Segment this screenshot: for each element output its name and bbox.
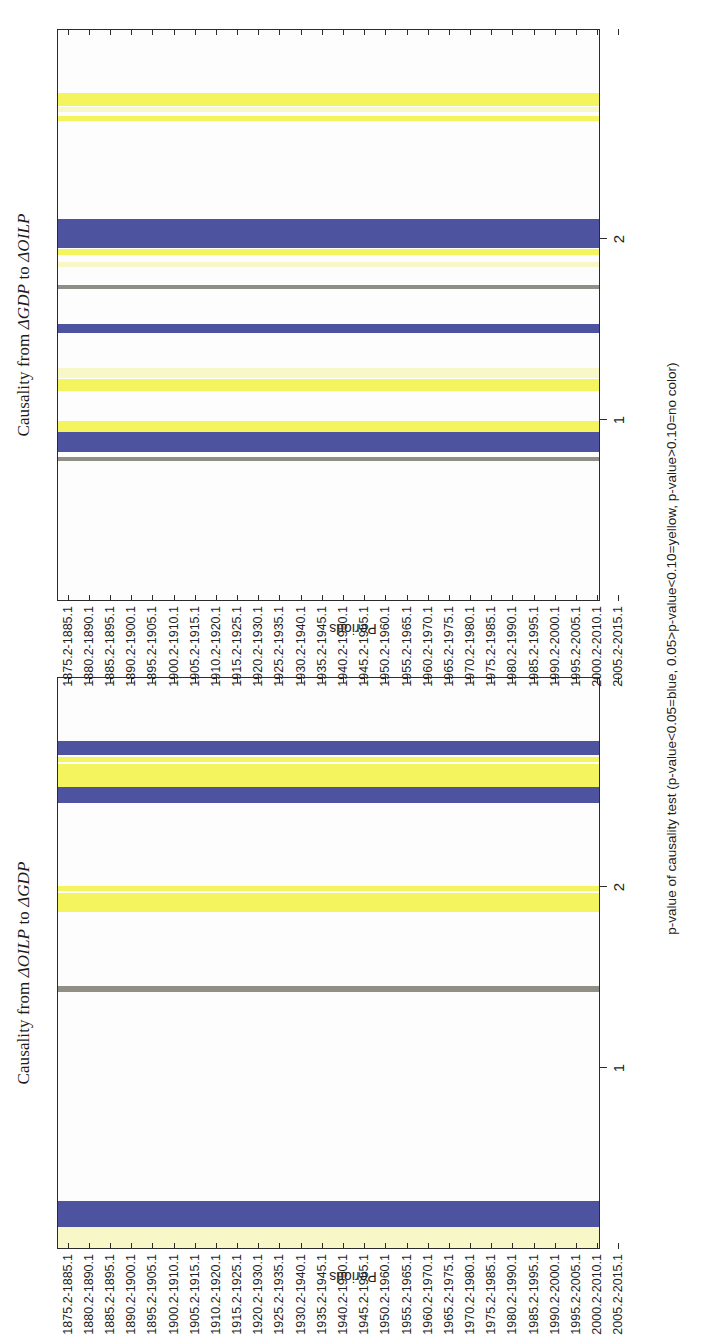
period-tick [555,29,556,35]
period-tick-label: 1945.2-1955.1 [358,1254,371,1335]
period-tick-label: 1920.2-1930.1 [252,606,265,687]
panel-gdp-to-oilp: Causality from ΔGDP to ΔOILP 1875.2-1885… [0,1,706,649]
period-tick-label: 1990.2-2000.1 [549,606,562,687]
pvalue-axis-gdp-to-oilp: 12 [600,29,642,601]
period-tick-label: 2000.2-2010.1 [591,1254,604,1335]
period-tick-label: 1900.2-1910.1 [167,606,180,687]
period-tick-label: 1925.2-1935.1 [273,1254,286,1335]
period-tick [576,29,577,35]
period-tick-label: 1920.2-1930.1 [252,1254,265,1335]
period-tick [597,29,598,35]
period-tick-label: 1975.2-1985.1 [485,606,498,687]
period-tick-label: 1880.2-1890.1 [83,1254,96,1335]
period-tick [110,29,111,35]
period-tick [428,29,429,35]
period-tick-label: 1895.2-1905.1 [146,1254,159,1335]
period-tick-label: 1995.2-2005.1 [570,1254,583,1335]
period-tick [68,29,69,35]
period-tick-label: 1965.2-1975.1 [443,1254,456,1335]
panel-title-gdp-to-oilp: Causality from ΔGDP to ΔOILP [14,1,34,649]
period-tick [491,29,492,35]
period-tick-label: 1935.2-1945.1 [316,1254,329,1335]
pvalue-tick [600,419,607,420]
period-tick-label: 1970.2-1980.1 [464,606,477,687]
figure-caption: p-value of causality test (p-value<0.05=… [664,0,679,1297]
period-tick-label: 1885.2-1895.1 [104,606,117,687]
panel-title-oilp-to-gdp: Causality from ΔOILP to ΔGDP [14,649,34,1297]
period-tick-label: 1970.2-1980.1 [464,1254,477,1335]
period-tick-label: 1945.2-1955.1 [358,606,371,687]
period-tick [470,29,471,35]
period-tick [195,29,196,35]
period-tick-label: 1985.2-1995.1 [527,1254,540,1335]
period-tick [279,29,280,35]
period-tick [407,29,408,35]
period-tick [258,29,259,35]
pvalue-tick-label: 1 [610,1064,627,1072]
period-tick [449,29,450,35]
period-tick-label: 1925.2-1935.1 [273,606,286,687]
period-tick-label: 1895.2-1905.1 [146,606,159,687]
period-tick-label: 1980.2-1990.1 [506,1254,519,1335]
period-tick-label: 1905.2-1915.1 [188,1254,201,1335]
period-tick-label: 1915.2-1925.1 [231,1254,244,1335]
period-tick-label: 1890.2-1900.1 [125,606,138,687]
period-axis-ticks-oilp-to-gdp [57,677,600,1249]
period-tick [152,29,153,35]
period-tick-label: 1930.2-1940.1 [294,606,307,687]
period-tick-label: 1940.2-1950.1 [337,606,350,687]
period-tick-label: 1910.2-1920.1 [210,606,223,687]
period-tick-label: 2000.2-2010.1 [591,606,604,687]
period-tick-label: 1995.2-2005.1 [570,606,583,687]
period-tick [301,29,302,35]
period-tick-label: 1975.2-1985.1 [485,1254,498,1335]
pvalue-tick [600,1067,607,1068]
panel-oilp-to-gdp: Causality from ΔOILP to ΔGDP 1875.2-1885… [0,649,706,1297]
period-tick-label: 1915.2-1925.1 [231,606,244,687]
period-tick-label: 1900.2-1910.1 [167,1254,180,1335]
period-tick-label: 1890.2-1900.1 [125,1254,138,1335]
period-tick [512,29,513,35]
period-tick-label: 1930.2-1940.1 [294,1254,307,1335]
period-tick [385,29,386,35]
period-tick [216,29,217,35]
period-tick-label: 1960.2-1970.1 [421,606,434,687]
period-tick-label: 1965.2-1975.1 [443,606,456,687]
period-tick-label: 1960.2-1970.1 [421,1254,434,1335]
period-tick-label: 1955.2-1965.1 [400,606,413,687]
period-tick-label: 1935.2-1945.1 [316,606,329,687]
period-tick-label: 1875.2-1885.1 [61,1254,74,1335]
pvalue-tick-label: 2 [610,235,627,243]
period-tick-label: 1905.2-1915.1 [188,606,201,687]
pvalue-tick-label: 2 [610,883,627,891]
period-tick [237,29,238,35]
period-tick-label: 1880.2-1890.1 [83,606,96,687]
period-tick [131,29,132,35]
period-tick [343,29,344,35]
period-tick-label: 1955.2-1965.1 [400,1254,413,1335]
period-tick-label: 2005.2-2015.1 [612,1254,625,1335]
period-tick-label: 1885.2-1895.1 [104,1254,117,1335]
axis-title-periods-right: Periods [273,621,433,637]
pvalue-tick [600,886,607,887]
period-tick-label: 1980.2-1990.1 [506,606,519,687]
period-tick [364,29,365,35]
period-tick-label: 1940.2-1950.1 [337,1254,350,1335]
period-axis-ticks-gdp-to-oilp [57,29,600,601]
pvalue-tick [600,238,607,239]
period-tick [534,29,535,35]
period-tick-label: 1950.2-1960.1 [379,1254,392,1335]
period-tick [174,29,175,35]
period-tick-label: 1950.2-1960.1 [379,606,392,687]
period-tick [89,29,90,35]
period-tick-label: 1910.2-1920.1 [210,1254,223,1335]
period-tick-label: 2005.2-2015.1 [612,606,625,687]
period-tick-label: 1875.2-1885.1 [61,606,74,687]
pvalue-tick-label: 1 [610,416,627,424]
axis-title-periods-left: Periods [273,1269,433,1285]
period-tick-label: 1990.2-2000.1 [549,1254,562,1335]
pvalue-axis-oilp-to-gdp: 12 [600,677,642,1249]
period-tick-label: 1985.2-1995.1 [527,606,540,687]
